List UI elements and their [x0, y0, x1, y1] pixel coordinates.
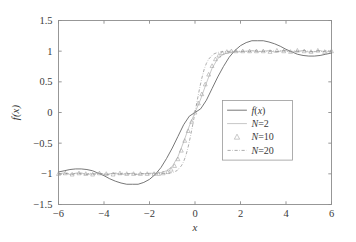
y-tick-label: 0.5: [39, 76, 52, 87]
data-point-marker: [104, 172, 108, 176]
x-tick-label: −2: [144, 208, 155, 219]
chart-canvas: f(x)N=2N=10N=20 −6−4−20246−1.5−1−0.500.5…: [0, 0, 356, 242]
x-tick-label: −4: [98, 208, 110, 219]
y-axis-label: f(x): [9, 105, 22, 121]
x-tick-label: 0: [192, 208, 197, 219]
y-tick-label: 1: [47, 46, 52, 57]
chart-legend: f(x)N=2N=10N=20: [223, 101, 293, 161]
x-tick-label: 6: [329, 208, 334, 219]
y-tick-label: −1: [41, 168, 52, 179]
x-tick-label: 4: [283, 208, 289, 219]
y-tick-label: −1.5: [33, 199, 52, 210]
data-point-marker: [214, 57, 218, 61]
legend-label: f(x): [252, 105, 266, 117]
data-point-marker: [186, 129, 190, 133]
y-tick-label: 1.5: [39, 15, 52, 26]
figure-container: f(x)N=2N=10N=20 −6−4−20246−1.5−1−0.500.5…: [0, 0, 356, 242]
x-axis-label: x: [192, 221, 198, 233]
data-point-marker: [183, 139, 187, 143]
legend-label: N=20: [251, 145, 274, 156]
x-tick-label: 2: [238, 208, 243, 219]
y-tick-label: −0.5: [33, 138, 52, 149]
y-tick-label: 0: [47, 107, 52, 118]
legend-label: N=2: [251, 118, 269, 129]
data-point-marker: [217, 53, 221, 57]
legend-label: N=10: [251, 131, 274, 142]
data-point-marker: [179, 148, 183, 152]
x-tick-label: −6: [53, 208, 64, 219]
